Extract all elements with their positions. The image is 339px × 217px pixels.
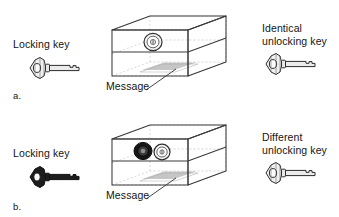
panel-b-locking-key-icon: [26, 165, 84, 189]
panel-b-lock-filled: [134, 142, 152, 159]
panel-b-letter: b.: [13, 201, 21, 212]
panel-a-lock-outline: [144, 33, 162, 50]
panel-b-box: [104, 111, 240, 211]
panel-a-locking-key-label: Locking key: [13, 38, 109, 51]
panel-b-lock-outline: [154, 144, 170, 160]
panel-a-unlocking-key-label: Identical unlocking key: [262, 22, 339, 47]
panel-a-unlocking-key-icon: [262, 52, 320, 76]
panel-a-locking-key-icon: [26, 56, 84, 80]
panel-b: Locking key Different unlocking key Mess…: [0, 109, 339, 217]
panel-b-unlocking-key-icon: [262, 161, 320, 185]
cryptography-figure: Locking key Identical unlocking key Mess…: [0, 0, 339, 217]
panel-b-unlocking-key-label: Different unlocking key: [262, 131, 339, 156]
panel-a: Locking key Identical unlocking key Mess…: [0, 0, 339, 108]
panel-a-box: [104, 2, 240, 102]
panel-a-letter: a.: [13, 90, 21, 101]
panel-b-locking-key-label: Locking key: [13, 147, 109, 160]
